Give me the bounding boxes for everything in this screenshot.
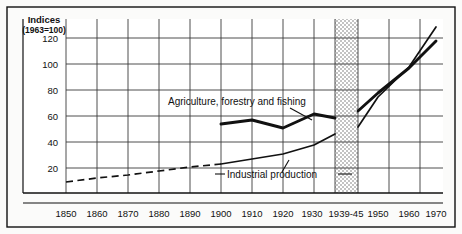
- chart-svg: Indices (1963=100) 120 100 80 60 40 20 1…: [0, 0, 462, 234]
- industrial-label: Industrial production: [227, 169, 317, 180]
- x-tick-1900: 1900: [210, 208, 231, 219]
- x-tick-1910: 1910: [241, 208, 262, 219]
- x-tick-1950: 1950: [367, 208, 388, 219]
- y-tick-100: 100: [42, 59, 58, 70]
- x-tick-1850: 1850: [55, 208, 76, 219]
- x-tick-1960: 1960: [398, 208, 419, 219]
- y-tick-60: 60: [47, 111, 58, 122]
- x-tick-1920: 1920: [272, 208, 293, 219]
- x-tick-1890: 1890: [179, 208, 200, 219]
- y-tick-40: 40: [47, 137, 58, 148]
- y-tick-120: 120: [42, 33, 58, 44]
- axis-title-line1: Indices: [28, 14, 61, 25]
- x-tick-1880: 1880: [148, 208, 169, 219]
- axis-title: Indices (1963=100): [22, 14, 66, 35]
- y-tick-80: 80: [47, 85, 58, 96]
- x-tick-war: 1939-45: [329, 208, 364, 219]
- y-tick-20: 20: [47, 163, 58, 174]
- x-tick-1870: 1870: [117, 208, 138, 219]
- x-tick-1860: 1860: [86, 208, 107, 219]
- x-tick-1930: 1930: [301, 208, 322, 219]
- agriculture-label: Agriculture, forestry and fishing: [168, 96, 306, 107]
- x-tick-1970: 1970: [425, 208, 446, 219]
- chart-figure: Indices (1963=100) 120 100 80 60 40 20 1…: [0, 0, 462, 234]
- war-band-shading: [335, 19, 358, 193]
